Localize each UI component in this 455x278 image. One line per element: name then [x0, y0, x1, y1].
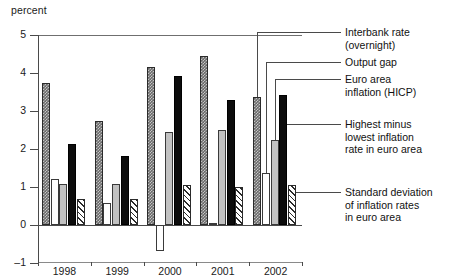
y-axis-tick-label: 3 [6, 104, 26, 116]
legend-leader-horizontal-0 [257, 32, 327, 33]
bar-hicp-2002 [271, 140, 279, 225]
y-axis-tick-label: 5 [6, 28, 26, 40]
legend-leader-stub-4 [327, 192, 341, 193]
bar-spread-1998 [68, 144, 76, 225]
x-axis-tick-label: 1999 [106, 265, 129, 277]
bar-output_gap-1998 [51, 179, 59, 225]
bar-hicp-2001 [218, 130, 226, 225]
y-axis-tick [30, 263, 38, 264]
y-axis-tick [30, 149, 38, 150]
legend-leader-stub-1 [327, 62, 341, 63]
x-axis-tick [196, 262, 197, 266]
x-axis-tick [91, 262, 92, 266]
legend-label-4: Standard deviation of inflation rates in… [345, 186, 453, 224]
x-axis-tick-label: 2002 [264, 265, 287, 277]
bar-stdev-2001 [235, 187, 243, 225]
x-axis-tick-label: 2001 [211, 265, 234, 277]
x-axis-tick [38, 262, 39, 266]
plot-top-border [38, 35, 302, 36]
y-axis-line [38, 35, 39, 262]
chart-figure: percent –1012345 19981999200020012002 In… [0, 0, 455, 278]
bar-spread-2002 [279, 95, 287, 225]
bar-hicp-1998 [59, 184, 67, 225]
y-axis-title: percent [11, 4, 47, 16]
bar-spread-2000 [174, 76, 182, 225]
bar-spread-2001 [227, 100, 235, 225]
x-axis-tick-label: 1998 [53, 265, 76, 277]
y-axis-tick [30, 111, 38, 112]
bar-hicp-1999 [112, 184, 120, 225]
bar-output_gap-1999 [103, 203, 111, 225]
bar-interbank-2000 [147, 67, 155, 225]
legend-leader-horizontal-3 [287, 124, 327, 125]
y-axis-tick [30, 35, 38, 36]
y-axis-tick-label: 2 [6, 142, 26, 154]
bar-interbank-1999 [95, 121, 103, 225]
bar-output_gap-2002 [262, 173, 270, 225]
bar-interbank-2002 [253, 97, 261, 225]
legend-leader-horizontal-4 [296, 192, 327, 193]
y-axis-tick [30, 73, 38, 74]
legend-leader-vertical-1 [266, 62, 267, 173]
legend-label-0: Interbank rate (overnight) [345, 26, 453, 51]
legend-label-2: Euro area inflation (HICP) [345, 73, 453, 98]
x-axis-tick [249, 262, 250, 266]
bar-hicp-2000 [165, 132, 173, 225]
legend-leader-horizontal-1 [266, 62, 327, 63]
bar-interbank-1998 [42, 83, 50, 225]
y-axis-tick-label: –1 [6, 256, 26, 268]
bar-stdev-1999 [130, 199, 138, 225]
bar-output_gap-2001 [209, 223, 217, 225]
legend-leader-stub-2 [327, 79, 341, 80]
zero-baseline [38, 225, 302, 226]
legend-leader-horizontal-2 [275, 79, 327, 80]
x-axis-line [38, 262, 302, 263]
legend-leader-stub-3 [327, 124, 341, 125]
bar-stdev-1998 [77, 199, 85, 225]
y-axis-tick [30, 225, 38, 226]
legend-leader-stub-0 [327, 32, 341, 33]
x-axis-tick [302, 262, 303, 266]
y-axis-tick [30, 187, 38, 188]
legend-label-3: Highest minus lowest inflation rate in e… [345, 118, 453, 156]
bar-spread-1999 [121, 156, 129, 225]
legend-leader-vertical-0 [257, 32, 258, 97]
bar-output_gap-2000 [156, 225, 164, 251]
bar-interbank-2001 [200, 56, 208, 225]
y-axis-tick-label: 1 [6, 180, 26, 192]
x-axis-tick [144, 262, 145, 266]
y-axis-tick-label: 4 [6, 66, 26, 78]
legend-leader-vertical-2 [275, 79, 276, 140]
bar-stdev-2000 [183, 185, 191, 225]
x-axis-tick-label: 2000 [158, 265, 181, 277]
y-axis-tick-label: 0 [6, 218, 26, 230]
legend-label-1: Output gap [345, 56, 453, 69]
